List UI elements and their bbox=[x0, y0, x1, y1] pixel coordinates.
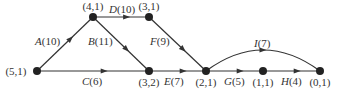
node-label-n11: (1,1) bbox=[252, 76, 273, 89]
node-label-n31: (3,1) bbox=[138, 0, 159, 13]
node-label-n51: (5,1) bbox=[5, 65, 26, 78]
edge-label-A: A(10) bbox=[34, 35, 60, 48]
node-label-n32: (3,2) bbox=[138, 76, 159, 89]
arrow-G bbox=[237, 68, 244, 73]
edge-label-G: G(5) bbox=[224, 75, 245, 88]
arrow-C bbox=[101, 68, 108, 73]
node-n32 bbox=[145, 67, 153, 75]
node-label-n21: (2,1) bbox=[195, 76, 216, 89]
edge-label-B: B(11) bbox=[88, 35, 113, 48]
edge-label-D: D(10) bbox=[108, 3, 136, 16]
node-n31 bbox=[145, 13, 153, 21]
node-n11 bbox=[259, 67, 267, 75]
node-n01 bbox=[316, 67, 324, 75]
edge-label-F: F(9) bbox=[149, 35, 170, 48]
edge-label-I: I(7) bbox=[253, 37, 271, 50]
node-n21 bbox=[202, 67, 210, 75]
edge-label-H: H(4) bbox=[280, 75, 302, 88]
network-diagram: A(10)B(11)C(6)D(10)E(7)F(9)G(5)H(4)I(7)(… bbox=[0, 0, 340, 93]
node-label-n41: (4,1) bbox=[82, 0, 103, 13]
arrow-E bbox=[180, 68, 187, 73]
edge-label-E: E(7) bbox=[163, 75, 184, 88]
arrow-H bbox=[294, 68, 301, 73]
node-n51 bbox=[33, 67, 41, 75]
node-n41 bbox=[89, 13, 97, 21]
edge-label-C: C(6) bbox=[82, 75, 103, 88]
arrow-D bbox=[123, 14, 130, 19]
node-label-n01: (0,1) bbox=[309, 76, 330, 89]
